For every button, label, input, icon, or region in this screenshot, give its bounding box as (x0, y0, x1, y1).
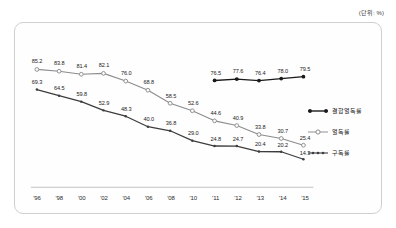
series-marker (213, 145, 215, 147)
series-marker (213, 79, 217, 83)
series-marker (57, 69, 61, 73)
chart-screenshot: (단위: %) '96'98'00'02'04'06'08'10'11'12'1… (0, 0, 396, 228)
series-marker (258, 150, 260, 152)
series-marker (58, 94, 60, 96)
series-marker (279, 77, 283, 81)
series-marker (147, 125, 149, 127)
series-marker (35, 68, 39, 72)
series-marker (168, 101, 172, 105)
legend-marker-open-circle-icon (307, 128, 329, 136)
series-marker (257, 79, 261, 83)
unit-note: (단위: %) (359, 8, 384, 17)
series-marker (235, 124, 239, 128)
series-marker (236, 145, 238, 147)
series-marker (279, 137, 283, 141)
series-marker (102, 72, 106, 76)
series-marker (280, 151, 282, 153)
series-marker (124, 115, 126, 117)
series-marker (79, 72, 83, 76)
series-marker (169, 130, 171, 132)
series-marker (257, 133, 261, 137)
legend-marker-small-filled-circle-icon (307, 149, 329, 157)
legend-item-readership: 열독률 (307, 128, 383, 136)
chart-legend: 결합열독률 열독률 (307, 107, 383, 157)
series-marker (302, 75, 306, 79)
legend-item-combined-readership: 결합열독률 (307, 107, 383, 115)
series-marker (124, 79, 128, 83)
chart-card: '96'98'00'02'04'06'08'10'11'12'13'14'157… (14, 22, 382, 214)
legend-marker-filled-circle-icon (307, 107, 329, 115)
series-marker (102, 109, 104, 111)
series-marker (213, 119, 217, 123)
legend-item-subscription: 구독률 (307, 149, 383, 157)
series-marker (235, 77, 239, 81)
series-marker (191, 139, 193, 141)
legend-label-subscription: 구독률 (332, 150, 350, 156)
series-marker (190, 109, 194, 113)
series-marker (302, 158, 304, 160)
series-marker (36, 88, 38, 90)
series-line (37, 90, 304, 160)
legend-label-combined-readership: 결합열독률 (332, 108, 362, 114)
series-marker (302, 143, 306, 147)
legend-label-readership: 열독률 (332, 129, 350, 135)
series-marker (80, 100, 82, 102)
series-marker (146, 88, 150, 92)
